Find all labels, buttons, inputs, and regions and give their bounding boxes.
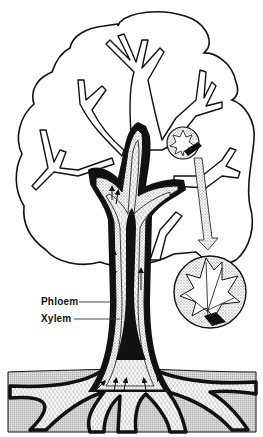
phloem-label: Phloem bbox=[41, 297, 78, 307]
xylem-label: Xylem bbox=[41, 314, 71, 324]
leaf-inset-large bbox=[174, 256, 246, 328]
tree-vascular-diagram: Phloem Xylem bbox=[0, 0, 263, 437]
